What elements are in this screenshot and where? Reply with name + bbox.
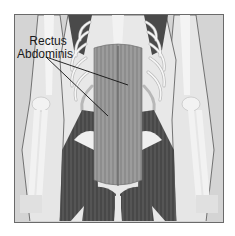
pubic-bone bbox=[115, 196, 121, 222]
right-groin-muscle bbox=[120, 187, 154, 222]
label-abdominis: Abdominis bbox=[15, 48, 75, 61]
right-arm bbox=[168, 15, 218, 222]
left-groin-muscle bbox=[82, 187, 116, 222]
